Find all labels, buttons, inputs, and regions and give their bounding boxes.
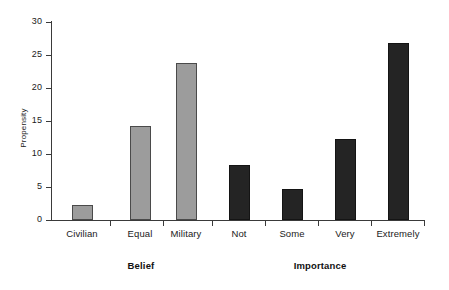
category-label-very: Very — [335, 228, 354, 239]
x-tick-6 — [424, 221, 425, 226]
bar-chart: Propensity 051015202530 CivilianEqualMil… — [0, 0, 449, 290]
category-label-civilian: Civilian — [66, 228, 97, 239]
category-label-extremely: Extremely — [376, 228, 419, 239]
group-label-importance: Importance — [294, 260, 347, 271]
x-tick-3 — [265, 221, 266, 226]
bar-not — [229, 165, 250, 220]
x-axis-line — [51, 220, 425, 221]
y-tick-25 — [46, 55, 51, 56]
bar-extremely — [388, 43, 409, 220]
category-label-some: Some — [279, 228, 304, 239]
category-label-equal: Equal — [128, 228, 153, 239]
y-tick-label-0: 0 — [14, 214, 42, 224]
y-tick-30 — [46, 22, 51, 23]
x-tick-2 — [212, 221, 213, 226]
y-tick-label-30: 30 — [14, 16, 42, 26]
y-tick-label-15: 15 — [14, 115, 42, 125]
x-tick-1 — [163, 221, 164, 226]
bar-military — [176, 63, 197, 220]
y-tick-label-10: 10 — [14, 148, 42, 158]
bar-some — [282, 189, 303, 220]
y-tick-15 — [46, 121, 51, 122]
x-tick-5 — [371, 221, 372, 226]
category-label-not: Not — [231, 228, 246, 239]
bar-equal — [130, 126, 151, 220]
x-tick-4 — [318, 221, 319, 226]
bar-very — [335, 139, 356, 220]
category-label-military: Military — [171, 228, 202, 239]
group-label-belief: Belief — [128, 260, 155, 271]
y-tick-10 — [46, 154, 51, 155]
y-tick-5 — [46, 187, 51, 188]
y-tick-label-25: 25 — [14, 49, 42, 59]
y-tick-label-5: 5 — [14, 181, 42, 191]
y-tick-20 — [46, 88, 51, 89]
x-tick-0 — [110, 221, 111, 226]
y-tick-label-20: 20 — [14, 82, 42, 92]
bar-civilian — [72, 205, 93, 220]
y-axis-line — [51, 21, 52, 221]
